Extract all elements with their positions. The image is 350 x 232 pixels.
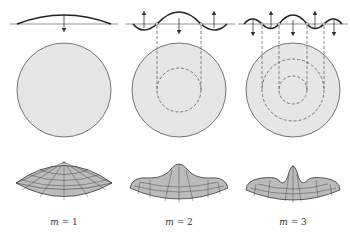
mesh-m2 — [130, 164, 228, 203]
mode-variable: m — [279, 217, 288, 227]
mode-value: = 1 — [59, 217, 78, 227]
disk-m1 — [17, 43, 111, 137]
mode-diagram — [0, 0, 350, 232]
disk-m2 — [132, 26, 226, 137]
mode-label-m3: m = 3 — [279, 217, 307, 227]
mode-value: = 3 — [288, 217, 307, 227]
mode-variable: m — [50, 217, 59, 227]
mesh-m3 — [246, 165, 340, 203]
mode-variable: m — [165, 217, 174, 227]
profile-m3 — [238, 13, 348, 34]
mode-value: = 2 — [174, 217, 193, 227]
profile-m2 — [125, 12, 235, 32]
mode-label-m1: m = 1 — [50, 217, 78, 227]
disk-m3 — [246, 26, 340, 137]
profile-m1 — [10, 14, 118, 30]
mesh-m1 — [16, 162, 112, 200]
mode-label-m2: m = 2 — [165, 217, 193, 227]
